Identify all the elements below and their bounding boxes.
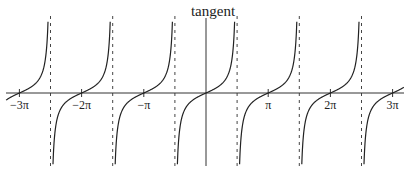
x-tick-label: −3π bbox=[10, 98, 29, 112]
x-tick-label: 2π bbox=[324, 98, 336, 112]
x-tick-label: −2π bbox=[72, 98, 91, 112]
x-tick-label: π bbox=[265, 98, 271, 112]
tangent-branch bbox=[6, 22, 48, 100]
x-tick-label: 3π bbox=[387, 98, 399, 112]
x-tick-label: −π bbox=[137, 98, 150, 112]
tangent-chart: tangent −3π−2π−ππ2π3π bbox=[0, 0, 408, 178]
chart-title: tangent bbox=[191, 3, 236, 19]
